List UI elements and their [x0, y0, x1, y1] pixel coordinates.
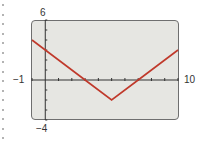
function-curve — [32, 40, 178, 100]
ymax-label: 6 — [40, 8, 46, 18]
graph-plot — [0, 0, 200, 144]
xmin-label: −1 — [13, 75, 24, 85]
xmax-label: 10 — [184, 75, 195, 85]
ymin-label: −4 — [36, 124, 47, 134]
